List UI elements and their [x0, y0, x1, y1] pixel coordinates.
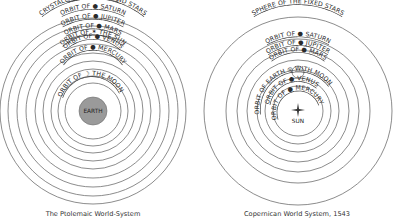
sun-label: SUN: [292, 118, 304, 124]
label-orbit-saturn: ORBIT OF ● SATURN: [59, 2, 128, 16]
copernican-diagram: SUN SPHERE OF THE FIXED STARS ORBIT OF ●…: [204, 0, 392, 218]
world-systems-diagram: EARTH PRIMUM MOBILE CRYSTALLINE HEAVENS …: [0, 0, 394, 222]
label-orbit-saturn: ORBIT OF ● SATURN: [264, 29, 333, 44]
label-orbit-mercury: ORBIT OF ● MERCURY: [270, 84, 326, 121]
ptolemaic-caption: The Ptolemaic World-System: [45, 210, 141, 218]
copernican-caption: Copernican World System, 1543: [244, 210, 350, 218]
ptolemaic-diagram: EARTH PRIMUM MOBILE CRYSTALLINE HEAVENS …: [0, 0, 186, 218]
earth-label: EARTH: [83, 108, 102, 114]
label-fixed-stars: SPHERE OF THE FIXED STARS: [250, 0, 345, 16]
label-orbit-moon: ORBIT OF ☽ THE MOON: [56, 69, 126, 97]
sun-star-icon: [291, 103, 305, 117]
